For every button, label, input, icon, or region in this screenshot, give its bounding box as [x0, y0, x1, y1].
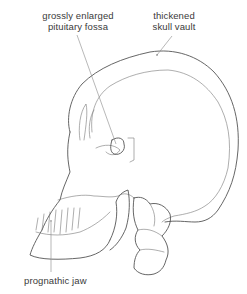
label-vault-line1: thickened: [144, 10, 204, 21]
label-skull-vault: thickened skull vault: [144, 10, 204, 32]
label-pituitary-fossa: grossly enlarged pituitary fossa: [36, 10, 120, 32]
lower-teeth: [36, 212, 110, 235]
face-profile: [30, 132, 110, 259]
jaw-pointer-dot: [50, 220, 52, 222]
leader-line-fossa: [77, 35, 116, 144]
mandible: [110, 190, 129, 250]
leader-line-vault: [157, 36, 172, 55]
skull-illustration: [0, 0, 247, 294]
frontal-sinus: [79, 104, 87, 140]
upper-teeth: [36, 208, 80, 234]
skull-vault-outer: [69, 51, 239, 222]
maxilla: [58, 194, 134, 200]
label-fossa-line2: pituitary fossa: [36, 21, 120, 32]
label-prognathic-jaw: prognathic jaw: [24, 275, 94, 286]
vault-pointer-dot: [156, 54, 158, 56]
cervical-vertebrae: [133, 197, 170, 275]
label-vault-line2: skull vault: [144, 21, 204, 32]
skull-diagram: grossly enlarged pituitary fossa thicken…: [0, 0, 247, 294]
orbit: [96, 145, 120, 155]
label-fossa-line1: grossly enlarged: [36, 10, 120, 21]
